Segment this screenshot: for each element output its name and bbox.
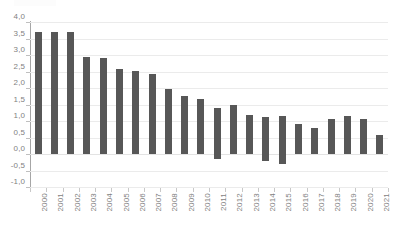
x-tick-label: 2013 bbox=[253, 193, 261, 212]
x-tick-label: 2001 bbox=[57, 193, 65, 212]
x-tick-label: 2015 bbox=[285, 193, 293, 212]
y-tick-mark bbox=[26, 105, 30, 106]
x-tick-mark bbox=[372, 188, 373, 192]
bar bbox=[100, 58, 107, 154]
x-tick-mark bbox=[30, 188, 31, 192]
bar bbox=[165, 89, 172, 154]
x-tick-label: 2011 bbox=[220, 193, 228, 211]
bar bbox=[376, 135, 383, 154]
bar bbox=[149, 74, 156, 154]
clipped-title-artifact bbox=[14, 0, 56, 6]
y-tick-mark bbox=[26, 138, 30, 139]
bar bbox=[51, 32, 58, 154]
x-tick-mark bbox=[209, 188, 210, 192]
y-tick-label: 1,5 bbox=[14, 96, 25, 104]
x-tick-mark bbox=[63, 188, 64, 192]
x-tick-label: 2005 bbox=[123, 193, 131, 212]
y-tick-label: 1,0 bbox=[14, 112, 25, 120]
x-tick-label: 2020 bbox=[367, 193, 375, 212]
x-tick-mark bbox=[355, 188, 356, 192]
bar bbox=[230, 105, 237, 154]
bar bbox=[83, 57, 90, 154]
x-tick-mark bbox=[225, 188, 226, 192]
x-tick-mark bbox=[388, 188, 389, 192]
bar bbox=[360, 119, 367, 154]
x-tick-mark bbox=[79, 188, 80, 192]
y-tick-label: 2,5 bbox=[14, 63, 25, 71]
y-tick-label: 3,0 bbox=[14, 46, 25, 54]
x-tick-mark bbox=[242, 188, 243, 192]
x-tick-label: 2000 bbox=[41, 193, 49, 212]
y-tick-label: 3,5 bbox=[14, 30, 25, 38]
x-tick-mark bbox=[258, 188, 259, 192]
bar bbox=[116, 69, 123, 154]
bar bbox=[197, 99, 204, 154]
x-tick-label: 2018 bbox=[334, 193, 342, 212]
x-tick-label: 2003 bbox=[90, 193, 98, 212]
x-tick-label: 2014 bbox=[269, 193, 277, 212]
bar bbox=[181, 96, 188, 154]
bar bbox=[262, 117, 269, 162]
y-tick-label: 2,0 bbox=[14, 79, 25, 87]
y-tick-label: 0,0 bbox=[14, 145, 25, 153]
bar bbox=[311, 128, 318, 154]
x-tick-mark bbox=[95, 188, 96, 192]
x-tick-mark bbox=[176, 188, 177, 192]
x-tick-mark bbox=[274, 188, 275, 192]
x-tick-label: 2008 bbox=[171, 193, 179, 212]
bar bbox=[328, 119, 335, 154]
x-tick-label: 2012 bbox=[236, 193, 244, 212]
y-axis: 4,03,53,02,52,01,51,00,50,0-0,5-1,0 bbox=[0, 17, 28, 187]
bar bbox=[132, 71, 139, 154]
x-tick-mark bbox=[111, 188, 112, 192]
bar bbox=[246, 115, 253, 154]
bar-chart: 4,03,53,02,52,01,51,00,50,0-0,5-1,0 2000… bbox=[0, 0, 393, 232]
x-tick-label: 2016 bbox=[302, 193, 310, 212]
x-tick-label: 2007 bbox=[155, 193, 163, 212]
plot-area bbox=[30, 22, 388, 187]
bar bbox=[214, 108, 221, 158]
bar bbox=[344, 116, 351, 154]
x-tick-label: 2006 bbox=[139, 193, 147, 212]
y-tick-label: 0,5 bbox=[14, 129, 25, 137]
x-tick-mark bbox=[323, 188, 324, 192]
x-tick-mark bbox=[128, 188, 129, 192]
x-tick-label: 2021 bbox=[383, 193, 391, 212]
bar bbox=[67, 32, 74, 154]
y-tick-mark bbox=[26, 55, 30, 56]
y-tick-label: -0,5 bbox=[11, 162, 25, 170]
x-tick-mark bbox=[46, 188, 47, 192]
y-tick-mark bbox=[26, 22, 30, 23]
x-tick-label: 2017 bbox=[318, 193, 326, 212]
y-tick-mark bbox=[26, 39, 30, 40]
x-tick-label: 2010 bbox=[204, 193, 212, 212]
x-tick-label: 2004 bbox=[106, 193, 114, 212]
y-tick-mark bbox=[26, 72, 30, 73]
bar bbox=[35, 32, 42, 154]
x-tick-mark bbox=[144, 188, 145, 192]
x-tick-label: 2019 bbox=[350, 193, 358, 212]
y-tick-mark bbox=[26, 121, 30, 122]
x-axis: 2000200120022003200420052006200720082009… bbox=[30, 190, 388, 232]
x-tick-label: 2009 bbox=[188, 193, 196, 212]
x-tick-mark bbox=[307, 188, 308, 192]
y-tick-mark bbox=[26, 88, 30, 89]
y-tick-label: -1,0 bbox=[11, 178, 25, 186]
y-tick-mark bbox=[26, 171, 30, 172]
x-tick-mark bbox=[193, 188, 194, 192]
x-tick-mark bbox=[339, 188, 340, 192]
y-tick-mark bbox=[26, 154, 30, 155]
bar bbox=[295, 124, 302, 154]
x-tick-mark bbox=[290, 188, 291, 192]
bar bbox=[279, 116, 286, 164]
x-tick-mark bbox=[160, 188, 161, 192]
y-tick-label: 4,0 bbox=[14, 13, 25, 21]
bar-series bbox=[30, 22, 388, 187]
x-tick-label: 2002 bbox=[74, 193, 82, 212]
